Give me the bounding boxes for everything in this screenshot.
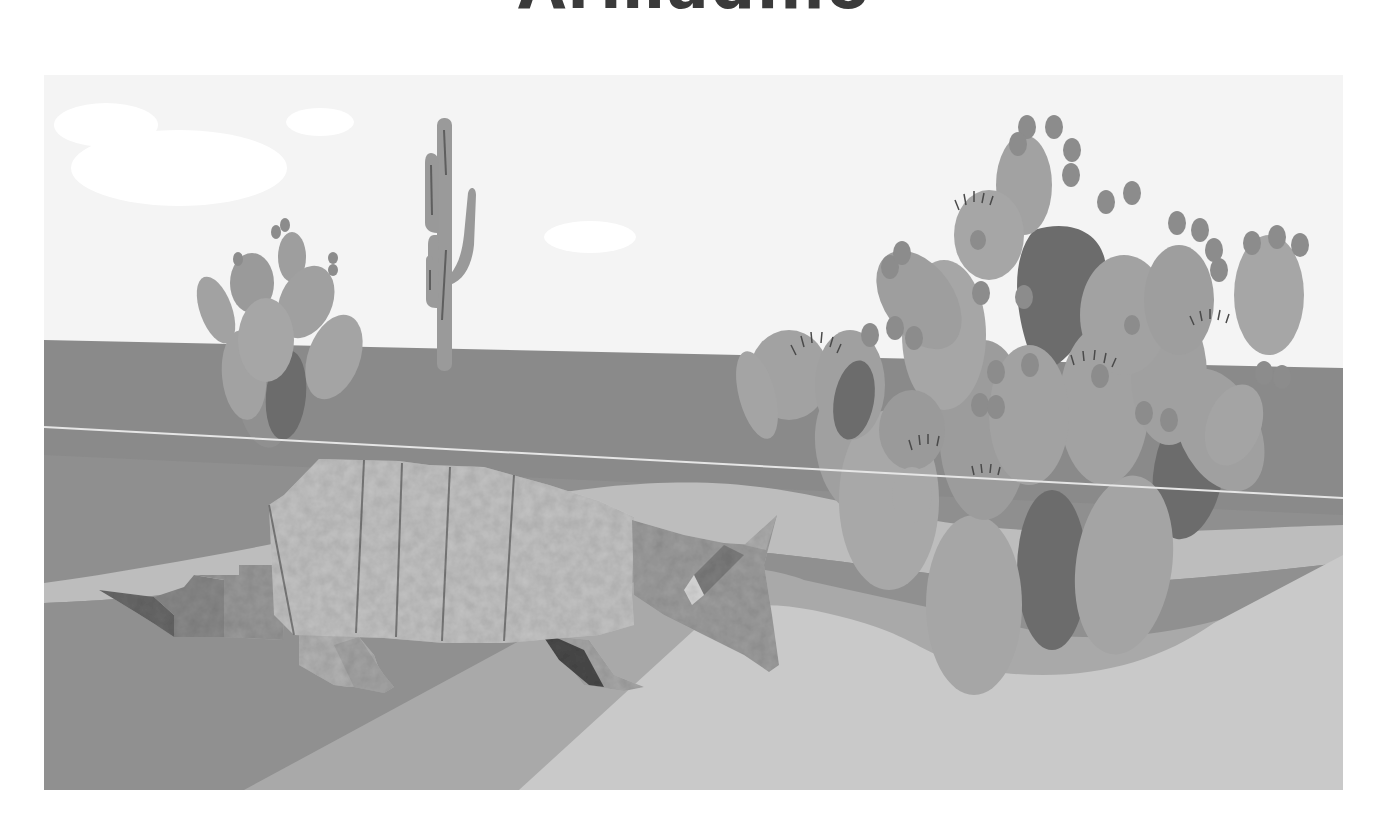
page-title: Armadillo (0, 0, 1389, 18)
desert-scene-illustration (44, 75, 1343, 790)
